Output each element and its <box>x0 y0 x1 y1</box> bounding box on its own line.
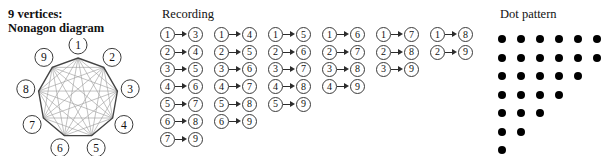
recording-node-from: 3 <box>214 62 229 77</box>
vertex-label: 9 <box>41 51 47 63</box>
recording-pair: 18 <box>430 26 473 43</box>
recording-node-from: 1 <box>214 27 229 42</box>
arrow-right-icon <box>283 30 296 39</box>
nonagon-vertex-3: 3 <box>121 80 139 98</box>
recording-node-to: 6 <box>296 45 311 60</box>
recording-node-from: 4 <box>214 79 229 94</box>
dot-row <box>498 104 611 123</box>
recording-node-from: 3 <box>160 62 175 77</box>
arrow-right-icon <box>283 65 296 74</box>
recording-node-from: 1 <box>322 27 337 42</box>
nonagon-panel: 9 vertices: Nonagon diagram 123456789 <box>0 0 158 158</box>
arrow-right-icon <box>391 30 404 39</box>
arrow-right-icon <box>229 30 242 39</box>
dot-row <box>498 30 611 49</box>
recording-pair: 13 <box>160 26 203 43</box>
recording-pair: 79 <box>160 130 203 147</box>
dot <box>498 128 506 136</box>
dot <box>536 54 544 62</box>
dot <box>555 91 563 99</box>
dot-row <box>498 141 611 158</box>
recording-node-from: 2 <box>376 45 391 60</box>
arrow-right-icon <box>283 48 296 57</box>
recording-node-from: 1 <box>160 27 175 42</box>
arrow-right-icon <box>337 65 350 74</box>
arrow-right-icon <box>175 82 188 91</box>
vertex-label: 4 <box>121 119 127 131</box>
recording-node-to: 5 <box>188 62 203 77</box>
recording-node-from: 7 <box>160 132 175 147</box>
recording-node-from: 4 <box>160 79 175 94</box>
dot <box>498 54 506 62</box>
recording-column-gap-5: 16273849 <box>322 26 376 96</box>
recording-node-from: 1 <box>376 27 391 42</box>
nonagon-vertex-9: 9 <box>35 48 53 66</box>
recording-pair: 26 <box>268 43 311 60</box>
recording-node-from: 4 <box>322 79 337 94</box>
recording-pair: 15 <box>268 26 311 43</box>
arrow-right-icon <box>229 117 242 126</box>
dot <box>536 91 544 99</box>
vertex-label: 3 <box>127 83 133 95</box>
recording-node-to: 7 <box>404 27 419 42</box>
recording-pair: 25 <box>214 43 257 60</box>
arrow-right-icon <box>175 65 188 74</box>
recording-node-to: 8 <box>296 79 311 94</box>
dot-pattern-title: Dot pattern <box>500 7 557 21</box>
recording-node-to: 3 <box>188 27 203 42</box>
dot <box>517 109 525 117</box>
recording-node-to: 7 <box>188 97 203 112</box>
dot <box>574 35 582 43</box>
nonagon-vertex-2: 2 <box>103 48 121 66</box>
dot <box>498 35 506 43</box>
dot <box>555 54 563 62</box>
dot-row <box>498 86 611 105</box>
recording-panel: Recording 132435465768791425364758691526… <box>160 0 490 158</box>
recording-column-gap-4: 1526374859 <box>268 26 322 113</box>
recording-node-from: 6 <box>214 114 229 129</box>
nonagon-vertex-4: 4 <box>115 116 133 134</box>
dot-row <box>498 67 611 86</box>
nonagon-diagonal <box>52 67 117 91</box>
recording-node-from: 2 <box>214 45 229 60</box>
dot <box>498 72 506 80</box>
recording-node-to: 9 <box>188 132 203 147</box>
recording-column-gap-2: 13243546576879 <box>160 26 214 148</box>
arrow-right-icon <box>175 48 188 57</box>
recording-pair: 35 <box>160 61 203 78</box>
dot <box>517 72 525 80</box>
recording-pair: 68 <box>160 113 203 130</box>
arrow-right-icon <box>337 48 350 57</box>
arrow-right-icon <box>337 30 350 39</box>
nonagon-vertex-7: 7 <box>23 116 41 134</box>
dot <box>517 128 525 136</box>
recording-pair: 69 <box>214 113 257 130</box>
dot <box>536 72 544 80</box>
recording-pair: 57 <box>160 96 203 113</box>
arrow-right-icon <box>229 48 242 57</box>
recording-node-from: 2 <box>268 45 283 60</box>
recording-column-gap-3: 142536475869 <box>214 26 268 130</box>
recording-pair: 17 <box>376 26 419 43</box>
recording-node-to: 9 <box>458 45 473 60</box>
recording-node-to: 8 <box>404 45 419 60</box>
nonagon-svg: 123456789 <box>8 38 148 156</box>
recording-node-from: 2 <box>322 45 337 60</box>
arrow-right-icon <box>283 100 296 109</box>
dot <box>498 146 506 154</box>
recording-node-to: 7 <box>242 79 257 94</box>
recording-pair: 47 <box>214 78 257 95</box>
vertex-label: 6 <box>57 142 63 154</box>
arrow-right-icon <box>391 48 404 57</box>
recording-node-to: 7 <box>296 62 311 77</box>
arrow-right-icon <box>175 117 188 126</box>
recording-title: Recording <box>162 7 214 21</box>
dot <box>536 35 544 43</box>
dot-row <box>498 123 611 142</box>
recording-pair: 39 <box>376 61 419 78</box>
recording-node-from: 3 <box>376 62 391 77</box>
dot <box>555 72 563 80</box>
recording-node-to: 7 <box>350 45 365 60</box>
arrow-right-icon <box>229 65 242 74</box>
recording-pair: 29 <box>430 43 473 60</box>
